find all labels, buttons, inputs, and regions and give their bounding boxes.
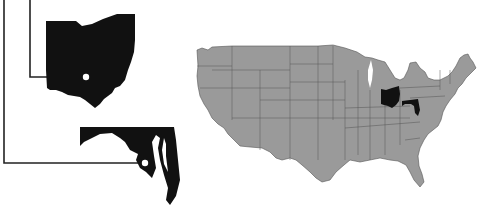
- maryland-capital-dot: [142, 160, 148, 166]
- us-map: [197, 45, 476, 187]
- ohio-capital-dot: [83, 74, 89, 80]
- map-canvas: [0, 0, 495, 212]
- us-contiguous-shape: [197, 45, 476, 187]
- ohio-inset-shape: [46, 14, 135, 108]
- locator-map-figure: [0, 0, 495, 212]
